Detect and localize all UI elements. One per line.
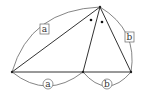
bisector-line — [83, 7, 100, 72]
angle-mark-dot-right — [101, 21, 104, 24]
angle-mark-dot-left — [90, 19, 93, 22]
circled-label-a: a — [45, 79, 51, 89]
vertex-foot — [82, 71, 84, 73]
vertex-left — [11, 71, 13, 73]
diagram-svg: a b a b — [0, 0, 144, 93]
boxed-label-b: b — [127, 32, 133, 42]
vertex-apex — [99, 6, 101, 8]
angle-bisector-diagram: a b a b — [0, 0, 144, 93]
circled-label-b: b — [104, 79, 110, 89]
boxed-label-a: a — [42, 24, 48, 34]
vertex-right — [130, 71, 132, 73]
